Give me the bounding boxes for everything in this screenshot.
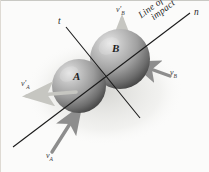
- impact-diagram: A B t n Line of impact vA vB v′A v′B: [0, 0, 209, 172]
- sphere-label-B: B: [112, 43, 119, 54]
- vector-label-v-B-prime: v′B: [116, 6, 125, 16]
- vector-label-v-A-prime: v′A: [21, 80, 30, 90]
- vector-label-v-A-subscript: A: [50, 156, 53, 162]
- vector-label-v-A-prime-subscript: A: [26, 84, 29, 90]
- diagram-canvas: [0, 0, 209, 172]
- axis-label-t: t: [58, 17, 61, 27]
- vector-label-v-A: vA: [46, 152, 53, 162]
- vector-label-v-B: vB: [170, 69, 177, 79]
- sphere-label-A: A: [73, 71, 80, 82]
- vector-label-v-B-prime-subscript: B: [121, 10, 124, 16]
- vector-label-v-B-subscript: B: [174, 73, 177, 79]
- axis-label-n: n: [194, 8, 199, 18]
